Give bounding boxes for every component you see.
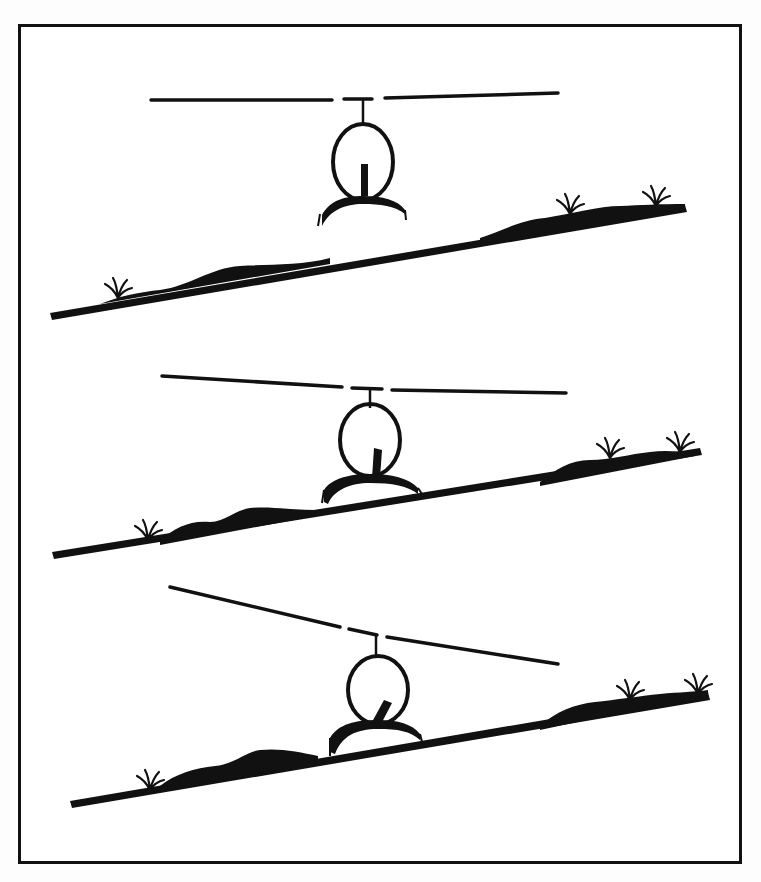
skid-base-1 xyxy=(322,196,405,226)
rotor-blade-1 xyxy=(151,93,558,100)
figure-page: Helicopter slope landing sequence xyxy=(0,0,761,882)
cabin-bubble-2 xyxy=(340,404,400,476)
slope-ground-3 xyxy=(70,690,710,808)
grass-icon xyxy=(667,432,694,452)
helicopter-1 xyxy=(151,93,558,226)
grass-icon xyxy=(643,186,670,206)
panel-3 xyxy=(70,587,712,808)
panel-1 xyxy=(50,93,687,320)
rotor-blade-2 xyxy=(162,376,566,393)
rotor-blade-3 xyxy=(170,587,558,664)
grass-icon xyxy=(557,194,584,214)
cyclic-stick-1 xyxy=(361,164,368,196)
slope-ground-1 xyxy=(50,204,687,320)
grass-icon xyxy=(105,278,132,298)
grass-icon xyxy=(597,438,624,458)
slope-landing-illustration xyxy=(0,0,761,882)
panel-2 xyxy=(52,376,702,559)
